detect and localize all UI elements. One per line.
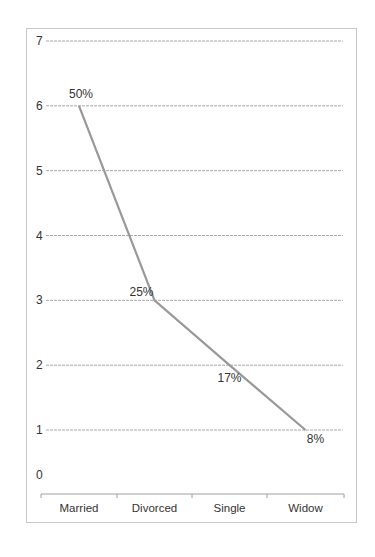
x-tick-label: Widow: [288, 502, 323, 514]
series-line: [79, 106, 306, 430]
y-tick-label: 3: [36, 293, 43, 307]
data-label: 25%: [129, 285, 153, 299]
x-tick-label: Married: [60, 502, 99, 514]
y-tick-label: 7: [36, 34, 43, 48]
y-tick-label: 0: [36, 468, 43, 482]
y-tick-label: 4: [36, 229, 43, 243]
x-tick-label: Divorced: [132, 502, 177, 514]
data-label: 50%: [69, 87, 93, 101]
y-tick-label: 5: [36, 164, 43, 178]
y-tick-label: 6: [36, 99, 43, 113]
x-axis: MarriedDivorcedSingleWidow: [41, 494, 344, 514]
data-label: 17%: [217, 371, 241, 385]
data-series: [79, 106, 306, 430]
line-chart: 01234567 MarriedDivorcedSingleWidow 50%2…: [0, 0, 375, 557]
y-tick-label: 2: [36, 358, 43, 372]
data-labels: 50%25%17%8%: [69, 87, 325, 446]
y-axis-labels: 01234567: [36, 34, 43, 482]
x-tick-label: Single: [214, 502, 246, 514]
y-tick-label: 1: [36, 423, 43, 437]
data-label: 8%: [307, 432, 325, 446]
